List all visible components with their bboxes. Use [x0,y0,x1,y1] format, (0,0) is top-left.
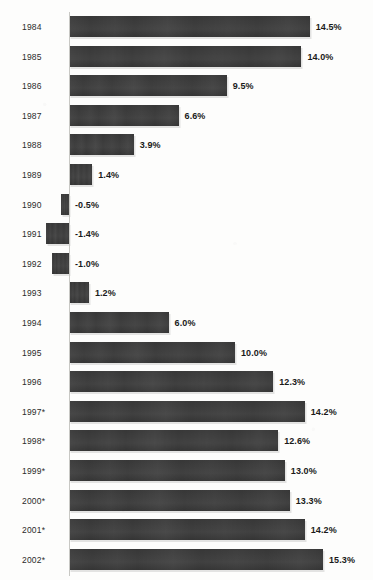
value-label-1991: -1.4% [75,228,99,240]
chart-row: 1992-1.0% [0,253,373,274]
category-label-1990: 1990 [0,199,58,211]
value-label-1989: 1.4% [98,169,119,181]
value-label-1986: 9.5% [233,80,254,92]
chart-row: 2000*13.3% [0,490,373,511]
bar-2002-est [69,549,323,570]
value-label-1984: 14.5% [316,21,342,33]
value-label-1997-est: 14.2% [311,406,337,418]
bar-1998-est [69,430,278,451]
value-label-1998-est: 12.6% [284,435,310,447]
bar-2001-est [69,519,305,540]
value-label-2002-est: 15.3% [329,554,355,566]
category-label-1992: 1992 [0,258,58,270]
chart-row: 19869.5% [0,75,373,96]
category-label-1989: 1989 [0,169,58,181]
category-label-1995: 1995 [0,347,58,359]
bar-1999-est [69,460,285,481]
chart-row: 199510.0% [0,342,373,363]
value-label-1995: 10.0% [241,347,267,359]
value-label-1985: 14.0% [307,51,333,63]
category-label-1984: 1984 [0,21,58,33]
chart-row: 198414.5% [0,16,373,37]
chart-row: 199612.3% [0,371,373,392]
bar-1990 [61,194,69,215]
category-label-1996: 1996 [0,376,58,388]
chart-row: 2002*15.3% [0,549,373,570]
category-label-1988: 1988 [0,139,58,151]
category-label-1993: 1993 [0,287,58,299]
bar-1987 [69,105,179,126]
category-label-1998-est: 1998* [0,435,58,447]
chart-row: 19876.6% [0,105,373,126]
value-label-2001-est: 14.2% [311,524,337,536]
zero-axis-line [69,12,70,576]
bar-1986 [69,75,227,96]
bar-1989 [69,164,92,185]
bar-1984 [69,16,310,37]
bar-1997-est [69,401,305,422]
chart-row: 1997*14.2% [0,401,373,422]
value-label-1999-est: 13.0% [291,465,317,477]
bar-1993 [69,282,89,303]
chart-row: 2001*14.2% [0,519,373,540]
category-label-1997-est: 1997* [0,406,58,418]
chart-row: 198514.0% [0,46,373,67]
bar-2000-est [69,490,290,511]
chart-row: 1990-0.5% [0,194,373,215]
value-label-2000-est: 13.3% [296,495,322,507]
chart-row: 1991-1.4% [0,223,373,244]
value-label-1992: -1.0% [75,258,99,270]
chart-row: 19946.0% [0,312,373,333]
bar-1995 [69,342,235,363]
category-label-2001-est: 2001* [0,524,58,536]
value-label-1996: 12.3% [279,376,305,388]
value-label-1987: 6.6% [185,110,206,122]
chart-row: 1998*12.6% [0,430,373,451]
value-label-1990: -0.5% [75,199,99,211]
value-label-1988: 3.9% [140,139,161,151]
category-label-1987: 1987 [0,110,58,122]
category-label-1994: 1994 [0,317,58,329]
category-label-1985: 1985 [0,51,58,63]
bar-1996 [69,371,273,392]
value-label-1993: 1.2% [95,287,116,299]
category-label-1999-est: 1999* [0,465,58,477]
bar-1988 [69,134,134,155]
chart-row: 19883.9% [0,134,373,155]
category-label-2000-est: 2000* [0,495,58,507]
bar-1985 [69,46,301,67]
bar-1994 [69,312,169,333]
plot-area: 198414.5%198514.0%19869.5%19876.6%19883.… [0,0,373,580]
category-label-2002-est: 2002* [0,554,58,566]
value-label-1994: 6.0% [175,317,196,329]
bar-1992 [52,253,69,274]
chart-row: 19891.4% [0,164,373,185]
chart-row: 1999*13.0% [0,460,373,481]
bar-1991 [46,223,69,244]
chart-row: 19931.2% [0,282,373,303]
bar-chart: 198414.5%198514.0%19869.5%19876.6%19883.… [0,0,373,580]
category-label-1986: 1986 [0,80,58,92]
